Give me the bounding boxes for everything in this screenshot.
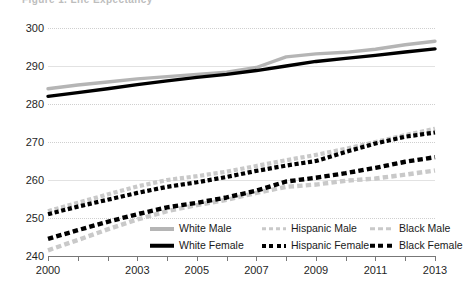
- legend-label: Black Female: [399, 240, 463, 251]
- legend-swatch-icon: [150, 226, 174, 232]
- y-tick-260: 260: [14, 174, 44, 186]
- x-tick-label-2005: 2005: [185, 264, 209, 276]
- x-tick-2004: [167, 256, 168, 261]
- x-tick-2012: [405, 256, 406, 261]
- y-tick-270: 270: [14, 136, 44, 148]
- legend-item-black-female[interactable]: Black Female: [370, 240, 460, 251]
- y-tick-290: 290: [14, 60, 44, 72]
- y-tick-300: 300: [14, 22, 44, 34]
- x-tick-label-2007: 2007: [244, 264, 268, 276]
- x-tick-label-2009: 2009: [304, 264, 328, 276]
- x-tick-label-2003: 2003: [125, 264, 149, 276]
- legend-label: White Female: [179, 240, 244, 251]
- legend-label: White Male: [179, 223, 232, 234]
- legend-label: Hispanic Female: [291, 240, 369, 251]
- legend-item-black-male[interactable]: Black Male: [370, 223, 460, 234]
- legend-item-white-female[interactable]: White Female: [150, 240, 262, 251]
- figure-title-text: Figure 1. Life Expectancy: [22, 0, 222, 6]
- legend-item-white-male[interactable]: White Male: [150, 223, 262, 234]
- x-tick-2011: [375, 256, 376, 261]
- x-tick-2003: [137, 256, 138, 261]
- x-tick-label-2013: 2013: [423, 264, 447, 276]
- y-tick-240: 240: [14, 250, 44, 262]
- x-tick-2001: [78, 256, 79, 261]
- legend-swatch-icon: [150, 243, 174, 249]
- y-tick-250: 250: [14, 212, 44, 224]
- legend-item-hispanic-male[interactable]: Hispanic Male: [262, 223, 370, 234]
- figure-title-clipped: Figure 1. Life Expectancy: [22, 0, 222, 6]
- x-tick-label-2011: 2011: [364, 264, 388, 276]
- series-line-hispanic-female: [48, 133, 435, 215]
- series-line-white-female: [48, 49, 435, 97]
- x-tick-2002: [108, 256, 109, 261]
- legend-swatch-icon: [370, 226, 394, 232]
- x-tick-2007: [256, 256, 257, 261]
- series-line-white-male: [48, 41, 435, 89]
- x-tick-2013: [435, 256, 436, 261]
- legend-swatch-icon: [370, 243, 394, 249]
- x-tick-2006: [227, 256, 228, 261]
- legend-swatch-icon: [262, 226, 286, 232]
- x-tick-2008: [286, 256, 287, 261]
- x-tick-2009: [316, 256, 317, 261]
- legend-label: Black Male: [399, 223, 450, 234]
- x-tick-label-2000: 2000: [36, 264, 60, 276]
- x-tick-2010: [346, 256, 347, 261]
- legend-label: Hispanic Male: [291, 223, 357, 234]
- legend-swatch-icon: [262, 243, 286, 249]
- legend-item-hispanic-female[interactable]: Hispanic Female: [262, 240, 370, 251]
- x-tick-2005: [197, 256, 198, 261]
- y-tick-280: 280: [14, 98, 44, 110]
- x-tick-2000: [48, 256, 49, 261]
- chart-legend: White MaleHispanic MaleBlack MaleWhite F…: [150, 220, 450, 254]
- x-axis-line: [48, 256, 435, 257]
